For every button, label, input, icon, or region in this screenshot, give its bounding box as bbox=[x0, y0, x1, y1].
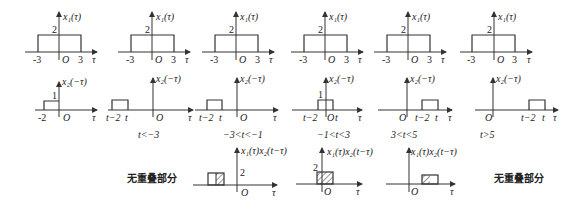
x1-label: x₁(τ) bbox=[62, 11, 82, 23]
x2-rect-pulse bbox=[529, 100, 545, 110]
tick-neg3: -3 bbox=[299, 54, 307, 65]
convolution-diagram: x₁(τ) 2 -3 O 3 τ x₁(τ) 2 -3 O 3 τ x₁(τ) … bbox=[0, 0, 581, 214]
tau-label: τ bbox=[272, 187, 276, 198]
row3-panel-1: x₁(τ)x₂(t−τ) 2 O τ bbox=[193, 145, 288, 198]
tick-t: t bbox=[542, 112, 545, 123]
tau-label: τ bbox=[441, 54, 445, 65]
tick-3: 3 bbox=[344, 54, 349, 65]
tick-neg3: -3 bbox=[210, 54, 218, 65]
row2-panel-1: x₂(−τ) 1 -2 O τ bbox=[35, 76, 97, 123]
tau-label: τ bbox=[92, 54, 96, 65]
origin-label: O bbox=[411, 54, 418, 65]
tau-label: τ bbox=[269, 54, 273, 65]
height-label: 1 bbox=[318, 89, 323, 100]
overlap-hatch bbox=[422, 175, 430, 184]
tau-label: τ bbox=[358, 54, 362, 65]
tau-label: τ bbox=[273, 112, 277, 123]
no-overlap-label-right: 无重叠部分 bbox=[493, 172, 544, 184]
row1-panel-5: x₁(τ) 2 -3 O 3 τ bbox=[374, 11, 446, 65]
row1-panel-3: x₁(τ) 2 -3 O 3 τ bbox=[202, 11, 274, 65]
condition-label: t<−3 bbox=[138, 129, 159, 140]
height-label: 2 bbox=[318, 24, 323, 35]
origin-label: O bbox=[327, 112, 334, 123]
tau-label: τ bbox=[92, 112, 96, 123]
tick-t-minus-2: t−2 bbox=[415, 112, 430, 123]
origin-label: O bbox=[411, 186, 418, 197]
x1-label: x₁(τ) bbox=[497, 11, 517, 23]
x2-label: x₂(−τ) bbox=[409, 73, 436, 85]
row3-panel-3: x₁(τ)x₂(t−τ) O τ bbox=[386, 146, 458, 197]
x2-rect-pulse bbox=[44, 101, 59, 110]
x1-label: x₁(τ) bbox=[155, 11, 175, 23]
x2-label: x₂(−τ) bbox=[495, 73, 522, 85]
tick-neg3: -3 bbox=[467, 54, 475, 65]
tick-t: t bbox=[219, 112, 222, 123]
row2-panel-5: x₂(−τ) O t−2 t τ 3<t<5 bbox=[378, 73, 452, 140]
height-label: 1 bbox=[52, 90, 57, 101]
origin-label: O bbox=[156, 112, 163, 123]
x2-label: x₂(−τ) bbox=[155, 73, 182, 85]
condition-label: −3<t<−1 bbox=[223, 129, 263, 140]
x2-rect-pulse bbox=[422, 100, 438, 110]
tick-neg2: -2 bbox=[38, 112, 46, 123]
height-label: 2 bbox=[52, 24, 57, 35]
x2-label: x₂(−τ) bbox=[61, 76, 88, 88]
origin-label: O bbox=[399, 112, 406, 123]
tick-neg3: -3 bbox=[126, 54, 134, 65]
x2-label: x₂(−τ) bbox=[239, 73, 266, 85]
tick-3: 3 bbox=[78, 54, 83, 65]
x2-label: x₂(−τ) bbox=[328, 73, 355, 85]
tau-label: τ bbox=[185, 54, 189, 65]
overlap-hatch bbox=[317, 172, 333, 184]
tick-t-minus-2: t−2 bbox=[199, 112, 214, 123]
condition-label: 3<t<5 bbox=[390, 129, 417, 140]
origin-label: O bbox=[497, 54, 504, 65]
origin-label: O bbox=[485, 112, 492, 123]
x1-label: x₁(τ) bbox=[328, 11, 348, 23]
tau-label: τ bbox=[450, 186, 454, 197]
tick-neg3: -3 bbox=[33, 54, 41, 65]
tick-3: 3 bbox=[427, 54, 432, 65]
row1-panel-2: x₁(τ) 2 -3 O 3 τ bbox=[118, 11, 190, 65]
x1-label: x₁(τ) bbox=[411, 11, 431, 23]
x1-label: x₁(τ) bbox=[239, 11, 259, 23]
row1-panel-1: x₁(τ) 2 -3 O 3 τ bbox=[25, 11, 97, 65]
tick-t: t bbox=[125, 112, 128, 123]
origin-label: O bbox=[328, 54, 335, 65]
row2-panel-2: x₂(−τ) t−2 t O τ t<−3 bbox=[106, 73, 193, 140]
x2-rect-pulse bbox=[207, 100, 222, 110]
tick-t-minus-2: t−2 bbox=[303, 112, 318, 123]
tau-label: τ bbox=[527, 54, 531, 65]
tick-3: 3 bbox=[512, 54, 517, 65]
no-overlap-label-left: 无重叠部分 bbox=[126, 172, 177, 184]
origin-label: O bbox=[240, 112, 247, 123]
tau-label: τ bbox=[356, 186, 360, 197]
tick-t: t bbox=[335, 112, 338, 123]
row1-panel-6: x₁(τ) 2 -3 O 3 τ bbox=[460, 11, 532, 65]
origin-label: O bbox=[62, 54, 69, 65]
row2-panel-3: x₂(−τ) t−2 t O τ −3<t<−1 bbox=[195, 73, 278, 140]
height-label: 2 bbox=[229, 24, 234, 35]
overlap-hatch bbox=[216, 173, 224, 185]
tick-3: 3 bbox=[255, 54, 260, 65]
origin-label: O bbox=[239, 54, 246, 65]
tick-t-minus-2: t−2 bbox=[521, 112, 536, 123]
product-label: x₁(τ)x₂(t−τ) bbox=[240, 145, 288, 157]
row2-panel-4: x₂(−τ) 1 t−2 O t τ −1<t<3 bbox=[292, 73, 362, 140]
tau-label: τ bbox=[553, 112, 557, 123]
tau-label: τ bbox=[358, 112, 362, 123]
condition-label: t>5 bbox=[480, 129, 495, 140]
height-label: 2 bbox=[487, 24, 492, 35]
product-label: x₁(τ)x₂(t−τ) bbox=[326, 146, 374, 158]
origin-label: O bbox=[241, 187, 248, 198]
height-label: 2 bbox=[145, 24, 150, 35]
height-label: 2 bbox=[401, 24, 406, 35]
height-label: 2 bbox=[240, 167, 245, 178]
origin-label: O bbox=[155, 54, 162, 65]
tick-neg3: -3 bbox=[382, 54, 390, 65]
tick-t-minus-2: t−2 bbox=[106, 112, 121, 123]
tick-t: t bbox=[435, 112, 438, 123]
origin-label: O bbox=[324, 186, 331, 197]
x2-rect-pulse bbox=[112, 100, 128, 110]
row1-panel-4: x₁(τ) 2 -3 O 3 τ bbox=[291, 11, 363, 65]
